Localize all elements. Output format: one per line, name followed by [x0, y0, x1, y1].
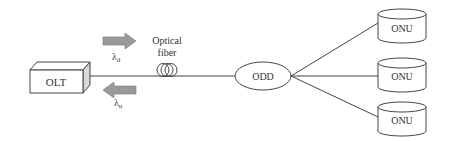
branch-line-1 [291, 23, 378, 76]
upstream-arrow [103, 82, 136, 98]
downstream-arrow [103, 33, 136, 49]
onu-3: ONU [378, 102, 426, 136]
fiber-label-line2: fiber [158, 47, 178, 58]
fiber-label-line1: Optical [152, 35, 182, 46]
onu-3-label: ONU [391, 115, 413, 126]
onu-2: ONU [378, 58, 426, 92]
olt-label: OLT [46, 76, 67, 88]
odd-node: ODD [235, 62, 291, 90]
onu-2-label: ONU [391, 71, 413, 82]
branch-line-3 [291, 76, 378, 117]
pon-diagram: OLT λd λu Optical fiber ODD ONU ONU [0, 0, 452, 141]
fiber-coil-icon [157, 64, 177, 77]
olt-box: OLT [30, 62, 90, 93]
onu-1-label: ONU [391, 23, 413, 34]
downstream-lambda: λd [112, 51, 121, 64]
odd-label: ODD [252, 71, 274, 82]
onu-1: ONU [378, 9, 426, 43]
upstream-lambda: λu [114, 97, 123, 110]
